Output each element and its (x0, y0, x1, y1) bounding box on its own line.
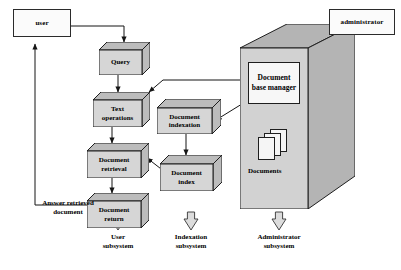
process-document-index[interactable]: Document index (160, 155, 222, 191)
block-arrow-indexation-subsystem (184, 212, 198, 230)
caption-user-subsystem-line1: User (111, 233, 125, 241)
caption-indexation-subsystem: Indexation subsystem (153, 233, 229, 251)
document-base-manager-label-line2: base manager (252, 83, 296, 93)
flow-manager-to-text-operations (149, 80, 250, 92)
caption-administrator-subsystem-line1: Administrator (257, 233, 300, 241)
flow-document-return-to-user (35, 44, 94, 205)
diagram-canvas: Document base manager Documents user adm… (0, 0, 401, 270)
caption-user-subsystem: User subsystem (83, 233, 153, 251)
container-3d-faces (240, 24, 355, 209)
document-base-manager-label-line1: Document (258, 73, 291, 83)
caption-user-subsystem-line2: subsystem (103, 242, 134, 250)
process-text-operations-label-line2: operations (102, 114, 134, 123)
container-side-face (308, 24, 355, 209)
actor-user[interactable]: user (13, 9, 71, 37)
caption-administrator-subsystem: Administrator subsystem (237, 233, 321, 251)
document-base-manager-box[interactable]: Document base manager (248, 62, 300, 104)
answer-annotation-line2: document (53, 208, 83, 216)
process-query[interactable]: Query (99, 42, 150, 75)
flow-user-to-query (69, 26, 124, 42)
block-arrow-administrator-subsystem (272, 212, 286, 230)
answer-retrieved-document-annotation: Answer retrieved document (28, 199, 108, 217)
page-icon-front (258, 137, 275, 160)
answer-annotation-line1: Answer retrieved (42, 199, 94, 207)
actor-administrator-label: administrator (341, 18, 384, 26)
caption-indexation-subsystem-line2: subsystem (176, 242, 207, 250)
documents-label: Documents (248, 167, 281, 175)
process-document-retrieval-label-line1: Document (99, 156, 130, 165)
caption-administrator-subsystem-line2: subsystem (264, 242, 295, 250)
process-document-index-label-line2: index (178, 178, 194, 187)
process-document-retrieval[interactable]: Document retrieval (87, 143, 149, 178)
actor-administrator[interactable]: administrator (329, 9, 395, 35)
process-document-index-label-line1: Document (171, 169, 202, 178)
process-query-label-line1: Query (111, 58, 130, 67)
process-text-operations-label-line1: Text (111, 105, 124, 114)
document-base-container: Document base manager Documents (240, 24, 355, 209)
caption-indexation-subsystem-line1: Indexation (175, 233, 207, 241)
documents-page-stack-icon (258, 129, 292, 161)
process-document-indexation[interactable]: Document indexation (157, 99, 221, 134)
actor-user-label: user (35, 19, 48, 27)
process-document-indexation-label-line1: Document (169, 113, 200, 122)
process-document-indexation-label-line2: indexation (169, 121, 201, 130)
process-text-operations[interactable]: Text operations (93, 92, 150, 127)
process-document-retrieval-label-line2: retrieval (101, 165, 127, 174)
